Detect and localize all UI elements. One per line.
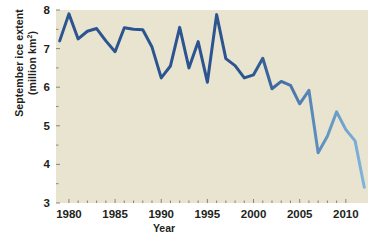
ice-extent-line-chart: September ice extent (million km2) 34567… (0, 0, 378, 242)
plot-area (0, 0, 378, 242)
